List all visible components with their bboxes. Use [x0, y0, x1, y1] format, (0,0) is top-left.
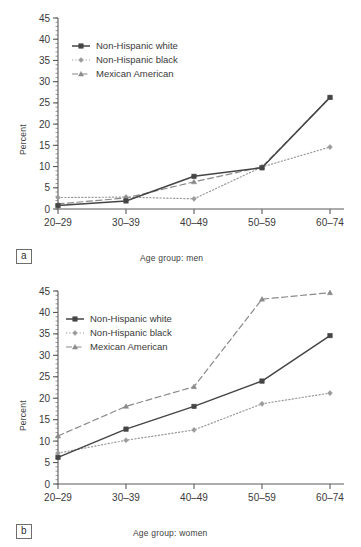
legend-marker-0	[73, 317, 77, 321]
series-marker-non-hispanic-black	[56, 195, 61, 200]
series-marker-non-hispanic-white	[328, 95, 332, 99]
series-line-non-hispanic-black	[58, 393, 330, 453]
legend-label-2: Mexican American	[90, 341, 168, 352]
series-marker-non-hispanic-black	[260, 401, 265, 406]
y-axis-tick-label: 5	[44, 457, 50, 468]
series-line-non-hispanic-white	[58, 336, 330, 458]
panel-tag-b: b	[16, 524, 32, 539]
x-axis-tick-label: 30–39	[112, 217, 140, 228]
x-axis-tick-label: 20–29	[44, 492, 72, 503]
x-axis-tick-label: 20–29	[44, 217, 72, 228]
y-axis-tick-label: 40	[39, 34, 51, 45]
series-line-mexican-american	[58, 97, 330, 204]
legend-marker-1	[79, 57, 84, 62]
y-axis-tick-label: 5	[44, 182, 50, 193]
legend-label-1: Non-Hispanic black	[90, 327, 172, 338]
series-marker-non-hispanic-black	[124, 438, 129, 443]
line-chart-men: 05101520253035404520–2930–3940–4950–5960…	[0, 0, 361, 230]
y-axis-title-a: Percent	[18, 124, 28, 155]
y-axis-tick-label: 15	[39, 140, 51, 151]
series-marker-non-hispanic-white	[56, 203, 60, 207]
series-marker-non-hispanic-white	[260, 379, 264, 383]
y-axis-tick-label: 30	[39, 76, 51, 87]
line-chart-women: 05101520253035404520–2930–3940–4950–5960…	[0, 273, 361, 505]
panel-tag-a: a	[16, 249, 32, 264]
y-axis-tick-label: 25	[39, 97, 51, 108]
series-marker-non-hispanic-white	[260, 166, 264, 170]
series-marker-mexican-american	[191, 179, 196, 184]
series-marker-non-hispanic-white	[124, 427, 128, 431]
plot-area-b: 05101520253035404520–2930–3940–4950–5960…	[0, 273, 361, 547]
x-axis-tick-label: 40–49	[180, 217, 208, 228]
x-axis-tick-label: 40–49	[180, 492, 208, 503]
plot-area-a: 05101520253035404520–2930–3940–4950–5960…	[0, 0, 361, 273]
series-marker-non-hispanic-white	[328, 333, 332, 337]
x-axis-tick-label: 50–59	[248, 492, 276, 503]
x-axis-tick-label: 60–74	[316, 492, 344, 503]
y-axis-tick-label: 30	[39, 350, 51, 361]
legend-marker-1	[73, 330, 78, 335]
chart-panel-a: 05101520253035404520–2930–3940–4950–5960…	[0, 0, 361, 273]
y-axis-tick-label: 20	[39, 119, 51, 130]
series-line-non-hispanic-white	[58, 97, 330, 205]
y-axis-tick-label: 35	[39, 328, 51, 339]
y-axis-tick-label: 40	[39, 307, 51, 318]
legend-marker-0	[79, 44, 83, 48]
x-axis-tick-label: 60–74	[316, 217, 344, 228]
y-axis-tick-label: 45	[39, 286, 51, 297]
x-axis-title-b: Age group: women	[133, 528, 208, 538]
series-marker-non-hispanic-white	[192, 404, 196, 408]
y-axis-tick-label: 25	[39, 371, 51, 382]
series-marker-non-hispanic-black	[192, 427, 197, 432]
series-marker-non-hispanic-white	[56, 455, 60, 459]
y-axis-tick-label: 35	[39, 55, 51, 66]
y-axis-tick-label: 0	[44, 479, 50, 490]
series-line-non-hispanic-black	[58, 147, 330, 199]
y-axis-tick-label: 0	[44, 204, 50, 215]
y-axis-title-b: Percent	[18, 400, 28, 431]
y-axis-tick-label: 20	[39, 393, 51, 404]
series-marker-non-hispanic-white	[192, 174, 196, 178]
y-axis-tick-label: 10	[39, 161, 51, 172]
series-marker-non-hispanic-black	[192, 196, 197, 201]
legend-label-0: Non-Hispanic white	[96, 40, 178, 51]
x-axis-tick-label: 50–59	[248, 217, 276, 228]
y-axis-tick-label: 45	[39, 13, 51, 24]
series-marker-mexican-american	[327, 290, 332, 295]
x-axis-title-a: Age group: men	[140, 253, 203, 263]
y-axis-tick-label: 10	[39, 436, 51, 447]
legend-label-0: Non-Hispanic white	[90, 313, 172, 324]
legend-label-1: Non-Hispanic black	[96, 54, 178, 65]
chart-panel-b: 05101520253035404520–2930–3940–4950–5960…	[0, 273, 361, 547]
x-axis-tick-label: 30–39	[112, 492, 140, 503]
legend-label-2: Mexican American	[96, 68, 174, 79]
series-marker-non-hispanic-white	[124, 199, 128, 203]
y-axis-tick-label: 15	[39, 414, 51, 425]
series-marker-non-hispanic-black	[328, 144, 333, 149]
series-marker-non-hispanic-black	[328, 390, 333, 395]
